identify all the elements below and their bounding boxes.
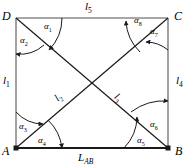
angle-label-a5: α5 <box>137 136 145 147</box>
vertex-label-D: D <box>2 10 11 22</box>
angle-label-a2-subscript: 2 <box>25 41 28 47</box>
angle-arc-a5 <box>124 117 137 148</box>
angle-label-a3: α3 <box>19 122 27 133</box>
side-label-l5: l5 <box>85 1 92 15</box>
angle-arc-a6 <box>131 101 168 112</box>
angle-label-a2: α2 <box>20 36 28 47</box>
angle-label-a7-subscript: 7 <box>155 32 158 38</box>
diagram-canvas <box>0 0 190 166</box>
vertex-dot-B <box>166 146 171 151</box>
side-label-l5-subscript: 5 <box>88 6 92 15</box>
angle-label-a3-subscript: 3 <box>24 127 27 133</box>
angle-label-a8-subscript: 8 <box>139 21 142 27</box>
vertex-dot-A <box>14 146 19 151</box>
vertex-label-C: C <box>174 10 182 22</box>
angle-label-a4-subscript: 4 <box>43 141 46 147</box>
angle-arc-a4 <box>48 120 62 148</box>
side-label-LAB-subscript: AB <box>84 157 93 166</box>
vertex-label-B: B <box>175 145 182 157</box>
vertex-label-A: A <box>2 145 9 157</box>
angle-label-a4: α4 <box>38 136 46 147</box>
angle-label-a1-subscript: 1 <box>49 27 52 33</box>
side-label-l4-subscript: 4 <box>179 80 183 89</box>
angle-label-a6-subscript: 6 <box>155 125 158 131</box>
angle-label-a7: α7 <box>150 27 158 38</box>
angle-label-a1: α1 <box>44 22 52 33</box>
side-label-LAB: LAB <box>78 152 93 166</box>
geometry-diagram-figure: D C A B l1 l4 l5 LAB l2 l3 α1 α2 α3 α4 α… <box>0 0 190 166</box>
side-label-l1-subscript: 1 <box>6 80 10 89</box>
angle-arc-a7 <box>146 42 168 50</box>
side-label-l4: l4 <box>176 75 183 89</box>
angle-label-a6: α6 <box>150 120 158 131</box>
side-label-l1: l1 <box>3 75 10 89</box>
angle-label-a8: α8 <box>134 16 142 27</box>
angle-label-a5-subscript: 5 <box>142 141 145 147</box>
